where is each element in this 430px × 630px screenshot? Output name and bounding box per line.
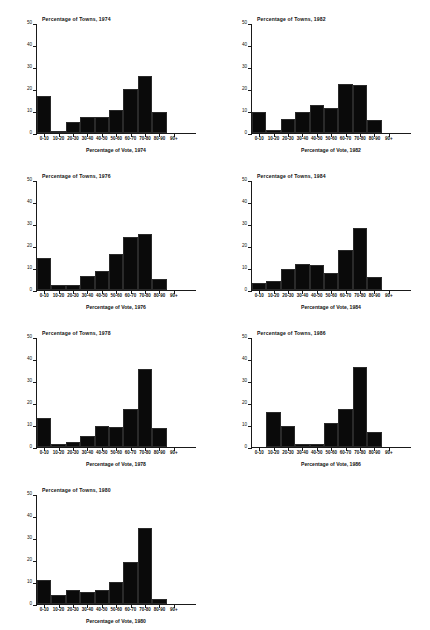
bar-slot <box>37 24 51 133</box>
x-axis-tick-label: 30-40 <box>82 451 94 456</box>
bar-slot <box>95 338 109 447</box>
x-axis-title: Percentage of Vote, 1978 <box>36 461 196 467</box>
bar-slot <box>324 338 338 447</box>
bar <box>324 423 338 447</box>
y-axis-tick-label: 10 <box>242 423 247 428</box>
x-axis-tick-label: 50-60 <box>110 294 122 299</box>
bar-slot <box>167 181 181 290</box>
chart-title: Percentage of Towns, 1980 <box>42 487 111 493</box>
figure-page: Percentage of Towns, 1974010203040500-10… <box>0 0 430 630</box>
y-axis-tick-label: 10 <box>27 423 32 428</box>
bar-slot <box>95 181 109 290</box>
bar <box>109 254 123 290</box>
x-axis-tick-label: 50-60 <box>325 451 337 456</box>
bar-slot <box>167 495 181 604</box>
y-axis-tick-label: 50 <box>242 21 247 26</box>
x-axis-tick-labels: 0-1010-2020-3030-4040-5050-6060-7070-808… <box>36 451 196 461</box>
bar <box>95 271 109 290</box>
bar-slot <box>338 181 352 290</box>
bar-slot <box>281 338 295 447</box>
y-axis-tick-label: 0 <box>244 288 247 293</box>
bar <box>338 250 352 290</box>
x-axis-tick-label: 50-60 <box>110 137 122 142</box>
y-axis-tick-label: 20 <box>27 401 32 406</box>
x-axis-tick-label: 70-80 <box>139 137 151 142</box>
bar <box>66 122 80 133</box>
bar-slot <box>281 181 295 290</box>
bar <box>51 285 65 290</box>
x-axis-tick-labels: 0-1010-2020-3030-4040-5050-6060-7070-808… <box>36 294 196 304</box>
y-axis-tick-label: 30 <box>27 536 32 541</box>
bar <box>80 436 94 447</box>
bar <box>51 131 65 133</box>
x-axis-tick-labels: 0-1010-2020-3030-4040-5050-6060-7070-808… <box>251 451 411 461</box>
x-axis-tick-label: 10-20 <box>268 451 280 456</box>
x-axis-tick-label: 90+ <box>170 294 178 299</box>
y-axis-tick-label: 0 <box>29 288 32 293</box>
x-axis-tick-label: 40-50 <box>96 294 108 299</box>
y-axis-tick-label: 10 <box>27 109 32 114</box>
y-axis-tick-label: 20 <box>242 244 247 249</box>
bar <box>109 427 123 447</box>
bar <box>152 428 166 447</box>
x-axis-tick-label: 80-90 <box>369 137 381 142</box>
y-axis-tick-label: 20 <box>27 558 32 563</box>
chart-panel: Percentage of Towns, 1984010203040500-10… <box>215 165 430 322</box>
bar-slot <box>66 181 80 290</box>
y-axis-tick-label: 10 <box>27 266 32 271</box>
bar <box>324 273 338 290</box>
bar-slot <box>37 338 51 447</box>
x-axis-title: Percentage of Vote, 1984 <box>251 304 411 310</box>
bar-slot <box>138 181 152 290</box>
x-axis-tick-label: 50-60 <box>110 451 122 456</box>
bar-slot <box>382 24 396 133</box>
bar-slot <box>109 181 123 290</box>
bar <box>367 277 381 290</box>
x-axis-tick-label: 0-10 <box>40 137 49 142</box>
y-axis-tick-label: 40 <box>242 357 247 362</box>
x-axis-tick-label: 80-90 <box>154 608 166 613</box>
bar <box>51 595 65 604</box>
y-axis-tick-label: 20 <box>242 87 247 92</box>
bar-series <box>37 338 181 447</box>
bar <box>252 283 266 290</box>
bar <box>51 444 65 447</box>
bar <box>266 412 280 447</box>
x-axis-tick-label: 50-60 <box>325 294 337 299</box>
x-axis-tick-label: 80-90 <box>154 137 166 142</box>
x-axis-tick-label: 90+ <box>385 137 393 142</box>
bar <box>252 112 266 133</box>
x-axis-tick-label: 30-40 <box>82 608 94 613</box>
y-axis-tick-label: 30 <box>242 65 247 70</box>
bar-slot <box>295 181 309 290</box>
bar-slot <box>324 181 338 290</box>
bar-slot <box>80 181 94 290</box>
bar <box>295 444 309 447</box>
plot-area: 01020304050 <box>251 181 411 291</box>
y-axis-tick-label: 10 <box>242 109 247 114</box>
x-axis-tick-label: 90+ <box>385 451 393 456</box>
bar-slot <box>51 181 65 290</box>
bar-slot <box>367 181 381 290</box>
x-axis-tick-label: 40-50 <box>96 451 108 456</box>
bar-slot <box>51 24 65 133</box>
y-axis-tick-label: 10 <box>27 580 32 585</box>
x-axis-tick-label: 80-90 <box>154 294 166 299</box>
y-axis-tick <box>33 134 37 135</box>
x-axis-tick-label: 40-50 <box>311 294 323 299</box>
bar-slot <box>310 181 324 290</box>
x-axis-tick-label: 20-30 <box>67 451 79 456</box>
bar <box>109 582 123 604</box>
x-axis-tick-label: 70-80 <box>354 137 366 142</box>
x-axis-tick-label: 30-40 <box>82 294 94 299</box>
x-axis-tick-label: 80-90 <box>369 451 381 456</box>
plot-area: 01020304050 <box>36 338 196 448</box>
bar-slot <box>123 495 137 604</box>
bar-slot <box>66 24 80 133</box>
y-axis-tick-label: 30 <box>27 379 32 384</box>
bar-slot <box>367 24 381 133</box>
bar <box>37 96 51 133</box>
x-axis-tick-label: 10-20 <box>268 137 280 142</box>
bar <box>310 444 324 447</box>
x-axis-tick-label: 90+ <box>385 294 393 299</box>
